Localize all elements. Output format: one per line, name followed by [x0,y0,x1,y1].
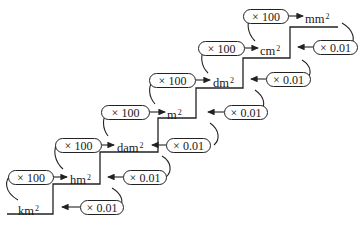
unit-dam2-base: dam [117,141,139,155]
unit-dm2-base: dm [213,76,229,90]
multiply-001-dam2-to-hm2: × 0.01 [123,170,167,185]
multiply-100-dm2-to-cm2: × 100 [198,41,245,56]
unit-cm2: cm2 [260,41,280,59]
unit-dm2: dm2 [213,73,234,91]
multiply-100-m2-to-dm2: × 100 [149,73,196,88]
multiply-001-hm2-to-km2: × 0.01 [80,200,124,215]
multiply-100-km2-to-hm2: × 100 [8,170,54,185]
multiply-100-cm2-to-mm2: × 100 [243,9,289,24]
multiply-100-dam2-to-m2: × 100 [101,105,150,120]
multiply-001-mm2-to-cm2: × 0.01 [313,40,358,55]
unit-mm2: mm2 [305,9,329,27]
unit-km2: km2 [18,201,39,219]
multiply-001-m2-to-dam2: × 0.01 [166,138,211,153]
unit-hm2-exp: 2 [87,173,91,182]
multiply-001-cm2-to-dm2: × 0.01 [266,72,311,87]
multiply-100-hm2-to-dam2: × 100 [55,138,102,153]
unit-cm2-base: cm [260,44,275,58]
unit-km2-base: km [18,204,34,218]
unit-mm2-exp: 2 [325,12,329,21]
unit-m2-base: m [167,108,177,122]
unit-mm2-base: mm [305,12,324,26]
unit-km2-exp: 2 [35,204,39,213]
unit-dam2: dam2 [117,138,144,156]
unit-dam2-exp: 2 [140,141,144,150]
unit-cm2-exp: 2 [276,44,280,53]
unit-m2-exp: 2 [178,108,182,117]
multiply-001-dm2-to-m2: × 0.01 [224,105,268,120]
unit-dm2-exp: 2 [230,76,234,85]
unit-hm2-base: hm [70,173,86,187]
unit-hm2: hm2 [70,170,91,188]
unit-m2: m2 [167,105,182,123]
